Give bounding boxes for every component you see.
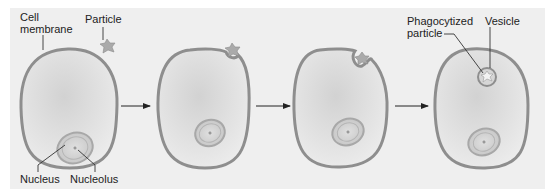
phagocytized-particle-label: Phagocytized particle — [407, 15, 473, 39]
nucleus-label: Nucleus — [20, 173, 60, 185]
particle-icon — [355, 52, 369, 65]
nucleolus-label: Nucleolus — [70, 173, 118, 185]
cell-membrane-label: Cell membrane — [20, 11, 73, 35]
cell-membrane — [158, 49, 249, 168]
stage-3-cell — [294, 49, 387, 167]
particle-label: Particle — [85, 13, 122, 25]
cell-membrane — [294, 49, 387, 167]
stage-1-cell — [21, 39, 117, 168]
vesicle-label: Vesicle — [485, 15, 520, 27]
stage-4-cell — [435, 49, 528, 168]
stage-2-cell — [158, 43, 249, 168]
particle-icon — [100, 39, 115, 53]
